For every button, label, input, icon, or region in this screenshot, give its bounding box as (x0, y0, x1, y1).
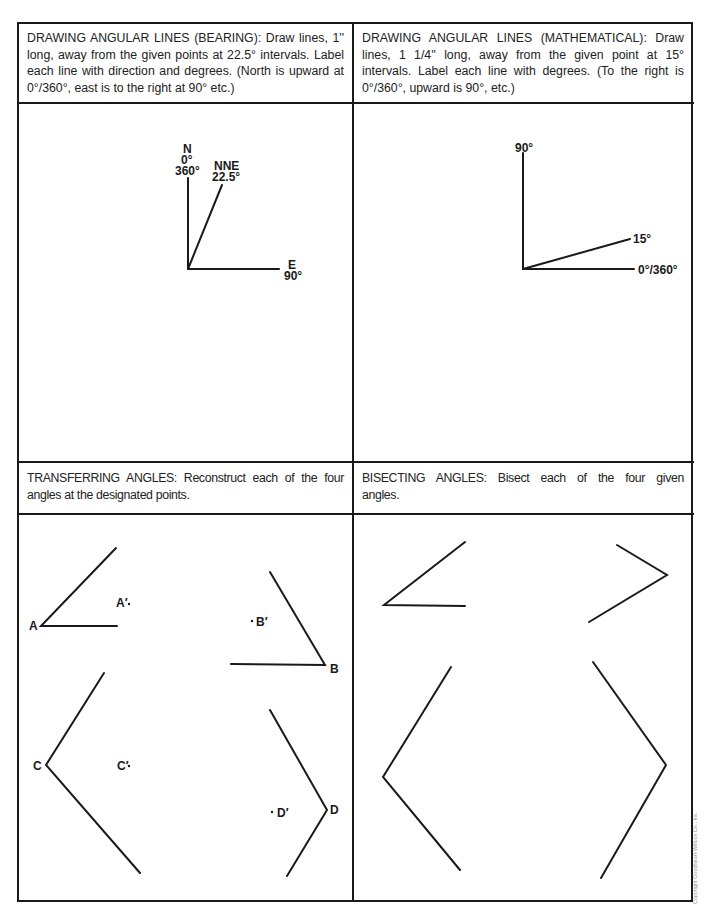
label-b-prime: B′ (256, 615, 268, 629)
label-0-360: 0°/360° (638, 263, 678, 277)
angle-b (231, 572, 325, 665)
bearing-diagram (188, 178, 279, 269)
angle-c (46, 673, 140, 873)
label-d: D (330, 803, 339, 817)
label-a-prime: A′ (116, 596, 128, 610)
angle-d (270, 710, 327, 876)
worksheet-drawings: N 0° 360° NNE 22.5° E 90° 90° 15° 0°/360… (0, 0, 710, 913)
copyright-notice: Copyright Goodheart-Willcox Co., Inc. (692, 812, 698, 904)
point-a-prime (128, 603, 130, 605)
label-d-prime: D′ (277, 806, 289, 820)
label-a: A (29, 619, 38, 633)
label-b: B (330, 662, 339, 676)
fifteen-degree-line (523, 239, 630, 269)
label-nne-deg: 22.5° (212, 170, 240, 184)
angle-a (41, 548, 117, 626)
label-north-360: 360° (175, 164, 200, 178)
label-15: 15° (633, 232, 651, 246)
label-90: 90° (515, 141, 533, 155)
bisect-angle-2 (589, 545, 667, 622)
bisect-angle-3 (383, 667, 460, 870)
label-c-prime: C′ (117, 759, 129, 773)
bisect-angle-1 (384, 542, 465, 606)
bisect-angle-4 (593, 662, 666, 878)
label-east-deg: 90° (284, 269, 302, 283)
nne-line (188, 185, 222, 269)
point-c-prime (128, 765, 130, 767)
mathematical-diagram (523, 153, 634, 269)
point-b-prime (251, 620, 253, 622)
point-d-prime (271, 811, 273, 813)
label-c: C (33, 759, 42, 773)
